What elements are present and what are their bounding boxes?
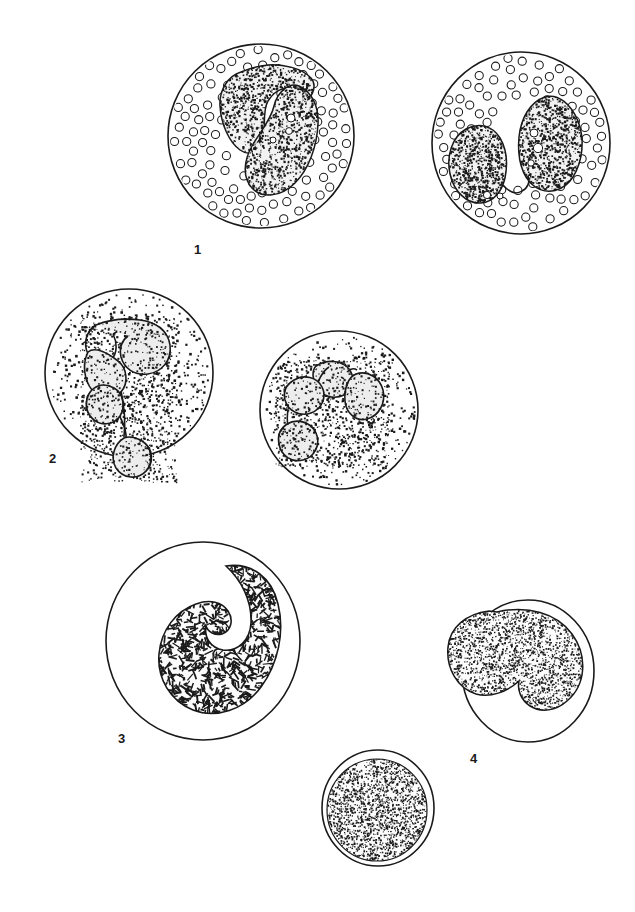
figure-label-4: 4 (470, 752, 477, 765)
figure-label-2: 2 (49, 452, 56, 465)
cell-neutrophil-left-drawing (0, 0, 635, 912)
cell-neutrophil-left (0, 0, 635, 912)
leukocyte-figure: 1 2 3 4 (0, 0, 635, 912)
figure-label-1: 1 (194, 243, 201, 256)
figure-label-3: 3 (118, 732, 125, 745)
